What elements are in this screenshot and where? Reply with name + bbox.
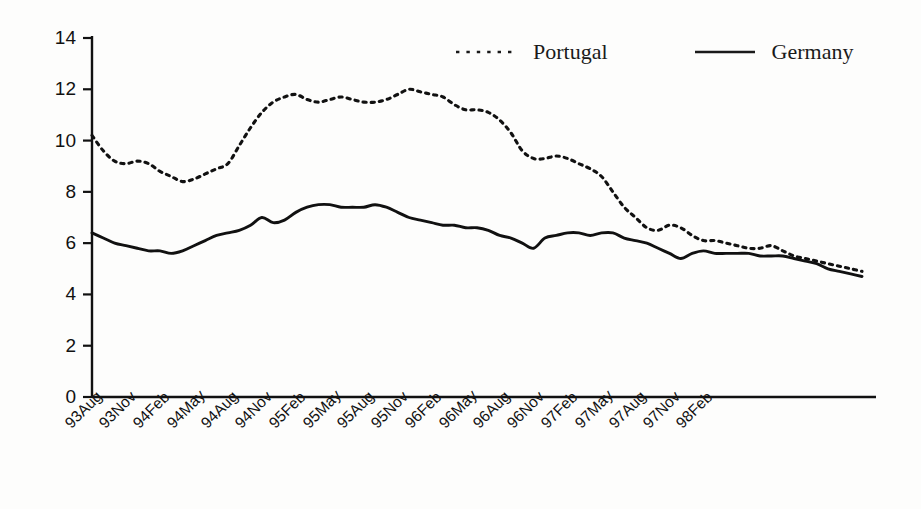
legend-label-germany: Germany	[772, 41, 854, 63]
y-axis-tick-label: 12	[30, 79, 76, 98]
y-axis-tick-label: 0	[30, 387, 76, 406]
legend-label-portugal: Portugal	[533, 41, 608, 63]
y-axis-tick-label: 6	[30, 233, 76, 252]
y-axis-tick-label: 4	[30, 284, 76, 303]
series-line-germany	[92, 204, 862, 276]
plot-area: 14121086420 93Aug93Nov94Feb94May94Aug94N…	[0, 0, 921, 509]
chart-page: 14121086420 93Aug93Nov94Feb94May94Aug94N…	[0, 0, 921, 509]
chart-canvas	[0, 0, 921, 509]
chart-legend: Portugal Germany	[455, 38, 853, 66]
y-axis-tick-label: 8	[30, 182, 76, 201]
series-line-portugal	[92, 89, 862, 271]
solid-line-marker-icon	[694, 46, 756, 58]
y-axis-tick-label: 2	[30, 336, 76, 355]
y-axis-ticks	[83, 38, 92, 397]
dotted-line-marker-icon	[455, 46, 517, 58]
y-axis-tick-label: 10	[30, 131, 76, 150]
legend-entry-portugal: Portugal	[455, 41, 608, 63]
legend-entry-germany: Germany	[694, 41, 854, 63]
y-axis-tick-label: 14	[30, 28, 76, 47]
